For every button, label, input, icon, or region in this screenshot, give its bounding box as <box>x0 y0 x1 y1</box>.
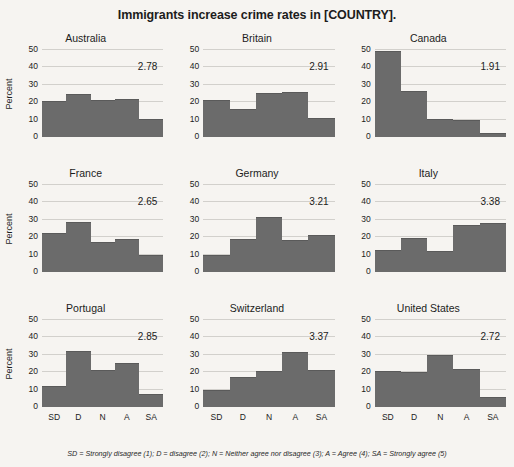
x-tick-label: D <box>401 412 427 422</box>
bar-slot-a <box>115 185 139 272</box>
x-tick-label: A <box>282 412 308 422</box>
y-tick-label: 30 <box>361 214 374 224</box>
y-tick-label: 0 <box>366 401 375 411</box>
y-tick-label: 30 <box>361 349 374 359</box>
panel-portugal: PortugalPercent01020304050SDDNASA2.85 <box>0 300 171 435</box>
y-tick-label: 10 <box>29 384 42 394</box>
figure-container: Immigrants increase crime rates in [COUN… <box>0 0 514 467</box>
panel-title: France <box>0 167 171 179</box>
bar-slot-d <box>66 185 90 272</box>
y-tick-label: 50 <box>361 44 374 54</box>
x-tick-label: D <box>66 412 90 422</box>
panel-canada: Canada010203040501.91 <box>343 30 514 165</box>
bar-slot-a <box>453 320 479 407</box>
bar <box>230 239 256 272</box>
panel-france: FrancePercent010203040502.65 <box>0 165 171 300</box>
x-tick-label: SA <box>480 412 506 422</box>
bar <box>139 119 163 137</box>
mean-annotation: 2.91 <box>309 61 328 72</box>
bar <box>427 355 453 407</box>
x-tick-label: N <box>427 412 453 422</box>
x-tick-label: D <box>230 412 256 422</box>
bar <box>42 386 66 407</box>
bar <box>427 119 453 137</box>
mean-annotation: 3.37 <box>309 331 328 342</box>
bar <box>115 239 139 272</box>
x-tick-label: N <box>91 412 115 422</box>
plot-area: 010203040503.38 <box>375 185 506 272</box>
y-tick-label: 10 <box>361 114 374 124</box>
y-tick-label: 50 <box>361 179 374 189</box>
y-tick-label: 0 <box>33 401 42 411</box>
y-tick-label: 50 <box>29 44 42 54</box>
bar <box>375 51 401 137</box>
y-tick-label: 30 <box>29 214 42 224</box>
bar-slot-d <box>66 320 90 407</box>
y-tick-label: 0 <box>195 266 204 276</box>
y-tick-label: 20 <box>29 366 42 376</box>
x-tick-label: SD <box>42 412 66 422</box>
y-tick-label: 0 <box>366 131 375 141</box>
y-axis-label: Percent <box>2 185 16 272</box>
y-tick-label: 20 <box>190 366 203 376</box>
bar <box>282 352 308 407</box>
y-tick-label: 30 <box>361 79 374 89</box>
bar-slot-sd <box>375 185 401 272</box>
figure-title: Immigrants increase crime rates in [COUN… <box>0 8 514 22</box>
y-tick-label: 10 <box>190 114 203 124</box>
bar-slot-n <box>256 50 282 137</box>
panel-title: United States <box>343 302 514 314</box>
bar <box>91 242 115 272</box>
panel-title: Portugal <box>0 302 171 314</box>
y-tick-label: 0 <box>195 131 204 141</box>
x-axis-labels: SDDNASA <box>42 407 163 422</box>
y-tick-label: 0 <box>366 266 375 276</box>
y-tick-label: 20 <box>29 96 42 106</box>
bar-slot-sd <box>42 320 66 407</box>
bar <box>230 377 256 407</box>
panel-grid: AustraliaPercent010203040502.78Britain01… <box>0 30 514 435</box>
y-tick-label: 40 <box>190 196 203 206</box>
y-tick-label: 40 <box>190 61 203 71</box>
mean-annotation: 1.91 <box>481 61 500 72</box>
bar-slot-n <box>91 320 115 407</box>
y-tick-label: 10 <box>29 249 42 259</box>
bar <box>42 233 66 272</box>
y-tick-label: 20 <box>361 96 374 106</box>
panel-title: Canada <box>343 32 514 44</box>
bar <box>308 118 334 137</box>
y-tick-label: 50 <box>29 314 42 324</box>
bar <box>115 363 139 407</box>
bar-slot-n <box>256 185 282 272</box>
bar <box>139 255 163 272</box>
bar-slot-a <box>282 185 308 272</box>
y-tick-label: 0 <box>195 401 204 411</box>
bar <box>282 92 308 137</box>
bar-slot-d <box>66 50 90 137</box>
panel-italy: Italy010203040503.38 <box>343 165 514 300</box>
plot-area: 010203040502.91 <box>203 50 334 137</box>
mean-annotation: 2.72 <box>481 331 500 342</box>
y-tick-label: 40 <box>29 196 42 206</box>
bar-slot-d <box>230 185 256 272</box>
x-tick-label: SA <box>308 412 334 422</box>
bar-slot-sd <box>375 50 401 137</box>
bar <box>256 217 282 272</box>
panel-australia: AustraliaPercent010203040502.78 <box>0 30 171 165</box>
bar-slot-a <box>115 320 139 407</box>
mean-annotation: 2.85 <box>138 331 157 342</box>
y-axis-label-text: Percent <box>4 78 14 109</box>
bar-slot-n <box>91 50 115 137</box>
plot-area: 010203040503.21 <box>203 185 334 272</box>
y-axis-label: Percent <box>2 320 16 407</box>
bar-slot-sd <box>203 185 229 272</box>
bar <box>375 250 401 272</box>
bar-slot-a <box>453 185 479 272</box>
bar-slot-a <box>115 50 139 137</box>
y-tick-label: 50 <box>190 179 203 189</box>
y-tick-label: 50 <box>190 44 203 54</box>
bar <box>453 369 479 407</box>
y-tick-label: 10 <box>361 249 374 259</box>
x-tick-label: A <box>453 412 479 422</box>
bar <box>480 397 506 407</box>
